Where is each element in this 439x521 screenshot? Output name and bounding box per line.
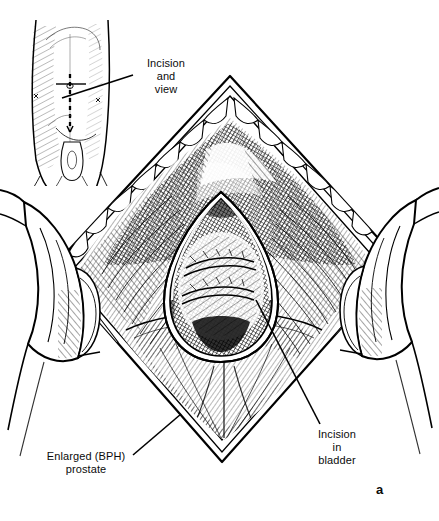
label-incision-and-view: Incision and view <box>133 57 199 96</box>
figure-letter: a <box>376 482 383 497</box>
inset-torso-diagram <box>28 20 112 196</box>
label-enlarged-bph-prostate: Enlarged (BPH) prostate <box>23 450 149 476</box>
label-incision-in-bladder: Incision in bladder <box>296 428 378 467</box>
